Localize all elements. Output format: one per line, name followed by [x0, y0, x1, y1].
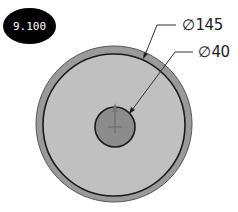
- leader-145: [145, 25, 176, 55]
- dimension-diameter-40: ∅40: [198, 43, 230, 61]
- dimension-diameter-145: ∅145: [182, 16, 223, 34]
- diameter-symbol-icon: ∅: [182, 16, 195, 34]
- diameter-symbol-icon: ∅: [198, 43, 211, 61]
